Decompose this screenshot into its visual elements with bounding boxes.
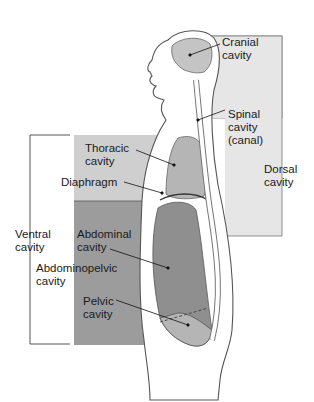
label-spinal-cavity: Spinal cavity (canal): [228, 108, 263, 147]
label-thoracic-cavity: Thoracic cavity: [85, 142, 129, 168]
label-ventral-cavity: Ventral cavity: [15, 228, 51, 254]
anatomy-illustration: [0, 0, 314, 402]
body-cavities-diagram: Cranial cavity Spinal cavity (canal) Dor…: [0, 0, 314, 402]
label-diaphragm: Diaphragm: [61, 176, 117, 189]
label-dorsal-cavity: Dorsal cavity: [264, 163, 297, 189]
label-abdominopelvic-cavity: Abdominopelvic cavity: [36, 262, 117, 288]
label-abdominal-cavity: Abdominal cavity: [77, 228, 131, 254]
label-cranial-cavity: Cranial cavity: [222, 36, 258, 62]
label-pelvic-cavity: Pelvic cavity: [83, 295, 114, 321]
